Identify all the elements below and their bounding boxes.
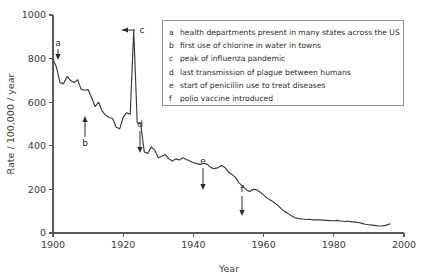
annotation-label-e: e (200, 156, 206, 166)
y-tick-label: 0 (40, 227, 46, 238)
annotation-arrowhead-b (82, 116, 87, 122)
legend-item-text: start of penicillin use to treat disease… (180, 79, 399, 92)
legend-item: ahealth departments present in many stat… (169, 26, 399, 39)
y-tick-label: 1000 (22, 9, 46, 20)
legend-item-key: e (169, 79, 180, 92)
x-tick-label: 2000 (392, 239, 416, 250)
y-tick-label: 600 (28, 97, 46, 108)
legend-item-key: b (169, 39, 180, 52)
legend-item: cpeak of influenza pandemic (169, 52, 399, 65)
legend-item-text: peak of influenza pandemic (180, 52, 399, 65)
legend-item: bfirst use of chlorine in water in towns (169, 39, 399, 52)
y-tick-label: 800 (28, 53, 46, 64)
x-tick-label: 1960 (252, 239, 276, 250)
y-tick-label: 400 (28, 140, 46, 151)
x-tick-label: 1980 (322, 239, 346, 250)
annotation-label-c: c (140, 25, 145, 35)
annotation-b: b (82, 116, 88, 148)
annotation-f: f (239, 184, 244, 216)
legend-item-text: health departments present in many state… (180, 26, 400, 39)
annotation-label-d: d (137, 119, 143, 129)
annotation-label-b: b (82, 138, 88, 148)
annotation-a: a (55, 38, 61, 60)
legend-item: fpolio vaccine introduced (169, 92, 399, 105)
legend-item-text: polio vaccine introduced (180, 92, 399, 105)
x-tick-label: 1920 (111, 239, 135, 250)
legend-item-text: last transmission of plague between huma… (180, 66, 399, 79)
x-tick-label: 1900 (41, 239, 65, 250)
legend-item-text: first use of chlorine in water in towns (180, 39, 399, 52)
legend-item-key: f (169, 92, 180, 105)
annotation-label-a: a (55, 38, 61, 48)
annotation-arrowhead-f (239, 210, 244, 216)
legend-item-key: d (169, 66, 180, 79)
legend-item-key: a (169, 26, 180, 39)
y-tick-label: 200 (28, 184, 46, 195)
legend-item-key: c (169, 52, 180, 65)
legend-item: estart of penicillin use to treat diseas… (169, 79, 399, 92)
annotation-arrowhead-e (200, 184, 205, 190)
annotation-legend: ahealth departments present in many stat… (162, 20, 404, 106)
x-axis-title: Year (218, 263, 239, 274)
annotation-arrowhead-d (137, 147, 142, 153)
annotation-e: e (200, 156, 206, 190)
legend-item: dlast transmission of plague between hum… (169, 66, 399, 79)
y-axis-title: Rate / 100,000 / year (5, 74, 16, 175)
annotation-arrowhead-a (55, 54, 60, 60)
annotation-arrowhead-c (122, 27, 128, 32)
chart-figure: 0200400600800100019001920194019601980200… (0, 0, 426, 279)
annotation-label-f: f (240, 184, 244, 194)
x-tick-label: 1940 (181, 239, 205, 250)
